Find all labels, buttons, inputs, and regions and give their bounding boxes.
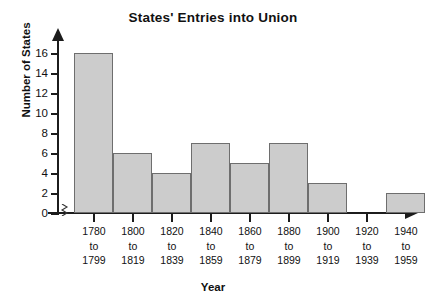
- bar-1800-1819: [113, 153, 152, 213]
- x-tick-line-start: 1940: [381, 224, 426, 239]
- y-tick-label-14: 14: [24, 67, 48, 79]
- y-tick-label-12: 12: [24, 87, 48, 99]
- y-tick-label-4: 4: [24, 167, 48, 179]
- bar-1820-1839: [152, 173, 191, 213]
- x-tick-mark: [327, 214, 329, 222]
- y-tick-mark: [51, 133, 59, 135]
- x-tick-mark: [132, 214, 134, 222]
- bar-1860-1879: [230, 163, 269, 213]
- y-tick-mark: [51, 213, 59, 215]
- x-tick-mark: [366, 214, 368, 222]
- x-tick-label-1940-1959: 1940 to 1959: [381, 224, 426, 268]
- y-tick-mark: [51, 153, 59, 155]
- y-tick-mark: [51, 53, 59, 55]
- bar-1780-1799: [74, 53, 113, 213]
- y-tick-label-0: 0: [24, 207, 48, 219]
- x-tick-line-to: to: [381, 239, 426, 254]
- x-tick-mark: [93, 214, 95, 222]
- x-tick-mark: [210, 214, 212, 222]
- y-tick-label-2: 2: [24, 187, 48, 199]
- y-tick-label-6: 6: [24, 147, 48, 159]
- bar-1880-1899: [269, 143, 308, 213]
- y-tick-mark: [51, 93, 59, 95]
- y-axis-arrow-icon: [51, 28, 65, 42]
- axis-break-icon: [60, 204, 69, 216]
- y-tick-label-8: 8: [24, 127, 48, 139]
- bar-1940-1959: [386, 193, 425, 213]
- x-tick-mark: [288, 214, 290, 222]
- x-tick-line-end: 1959: [381, 253, 426, 268]
- x-tick-mark: [171, 214, 173, 222]
- y-tick-label-10: 10: [24, 107, 48, 119]
- bar-1840-1859: [191, 143, 230, 213]
- plot-area: 0 2 4 6 8 10 12 14 16 1780 to 1799: [0, 0, 426, 306]
- y-tick-mark: [51, 193, 59, 195]
- bar-1900-1919: [308, 183, 347, 213]
- y-tick-label-16: 16: [24, 47, 48, 59]
- y-tick-mark: [51, 73, 59, 75]
- x-tick-mark: [249, 214, 251, 222]
- y-tick-mark: [51, 173, 59, 175]
- y-tick-mark: [51, 113, 59, 115]
- y-axis-line: [57, 40, 59, 214]
- chart-figure: States' Entries into Union Number of Sta…: [0, 0, 426, 306]
